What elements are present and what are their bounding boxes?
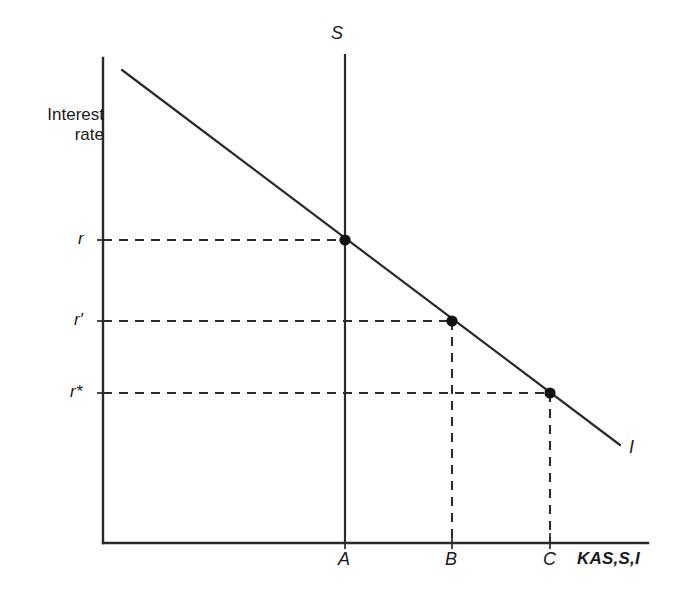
data-point-A (339, 234, 350, 245)
savings-investment-plot (0, 0, 688, 591)
x-label-b: B (445, 549, 457, 570)
y-label-r: r (78, 229, 84, 249)
economics-diagram: Interest rate r r′ r* A B C KAS,S,I S I (0, 0, 688, 591)
x-axis-title: KAS,S,I (577, 549, 640, 569)
investment-curve-label: I (629, 437, 634, 458)
axes-group (103, 58, 648, 543)
data-point-C (544, 387, 555, 398)
y-axis-title: Interest rate (16, 105, 104, 145)
data-point-B (446, 315, 457, 326)
x-axis-ticks (345, 533, 550, 549)
investment-curve-I (122, 70, 620, 445)
y-label-r-star: r* (70, 382, 82, 402)
supply-curve-label: S (331, 23, 343, 44)
x-label-a: A (338, 549, 350, 570)
guide-lines-group (103, 240, 550, 543)
y-label-r-prime: r′ (74, 310, 83, 330)
x-label-c: C (543, 549, 556, 570)
